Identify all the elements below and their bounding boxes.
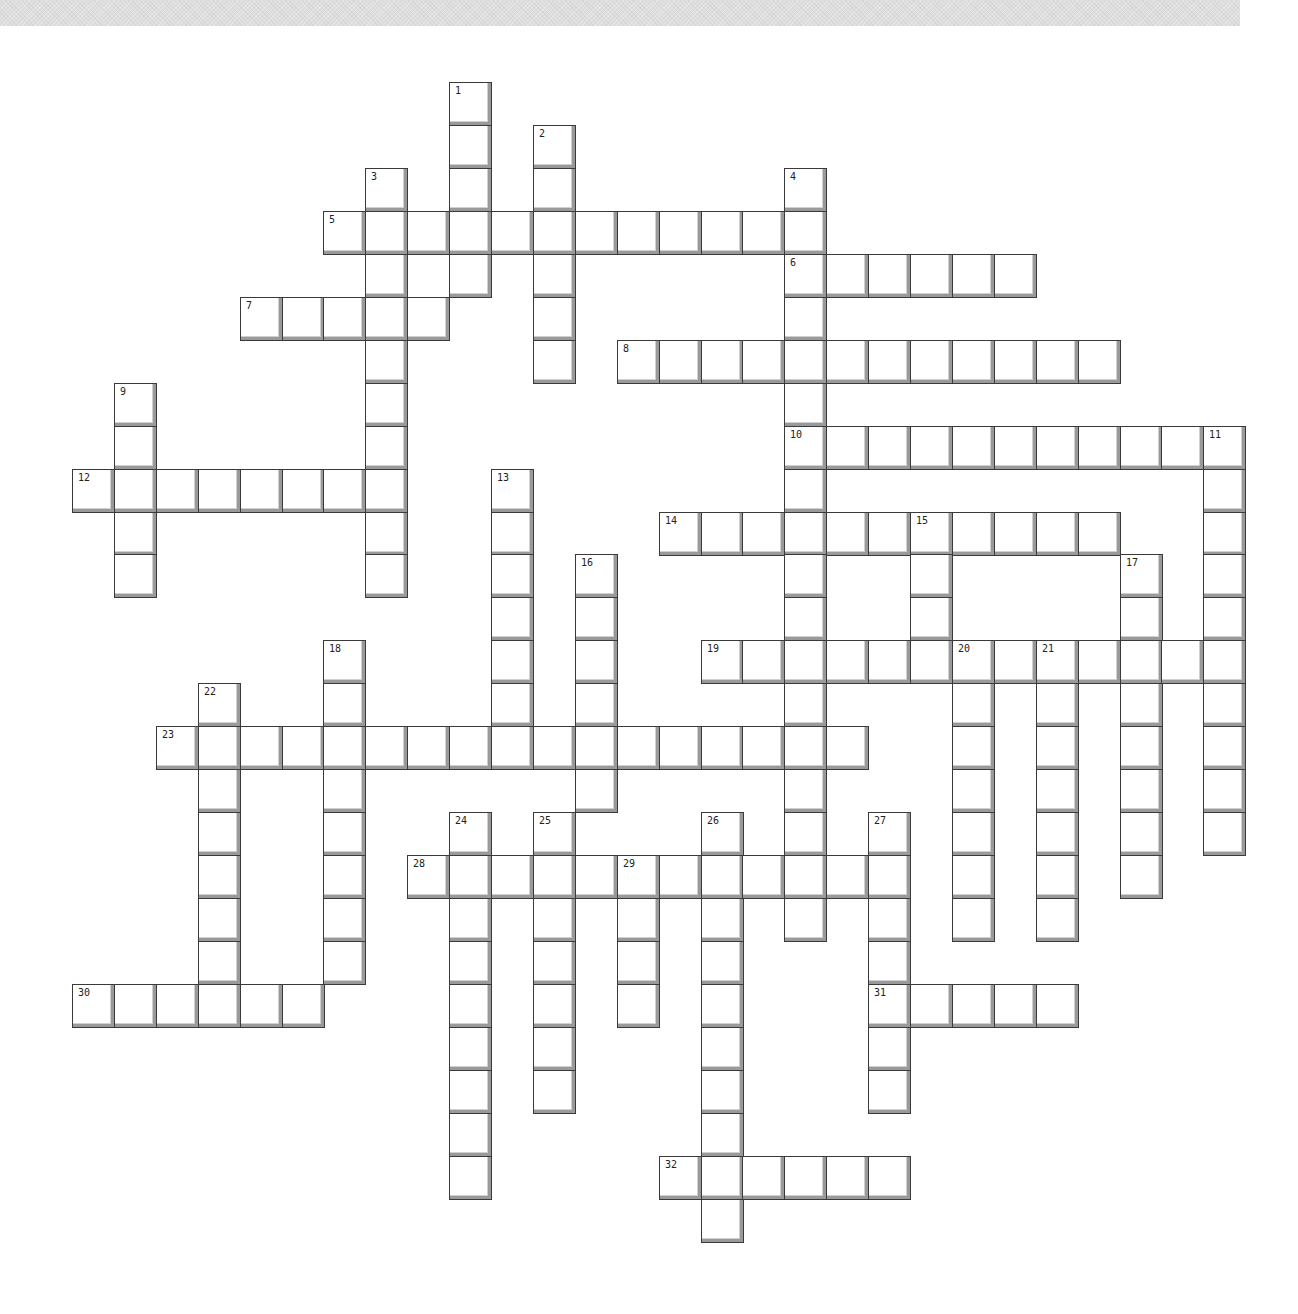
crossword-cell[interactable] xyxy=(868,1027,911,1071)
crossword-cell[interactable] xyxy=(952,512,995,556)
crossword-cell[interactable] xyxy=(1036,855,1079,899)
crossword-cell[interactable] xyxy=(282,984,325,1028)
crossword-cell[interactable] xyxy=(575,640,618,684)
crossword-cell[interactable] xyxy=(449,898,492,942)
crossword-cell[interactable] xyxy=(1120,812,1163,856)
crossword-cell[interactable] xyxy=(533,1070,576,1114)
crossword-cell[interactable] xyxy=(365,211,408,255)
crossword-cell[interactable] xyxy=(575,597,618,641)
crossword-cell[interactable] xyxy=(1078,512,1121,556)
crossword-cell[interactable] xyxy=(491,855,534,899)
crossword-cell[interactable] xyxy=(826,340,869,384)
crossword-cell[interactable]: 4 xyxy=(784,168,827,212)
crossword-cell[interactable] xyxy=(868,941,911,985)
crossword-cell[interactable] xyxy=(784,683,827,727)
crossword-cell[interactable] xyxy=(575,726,618,770)
crossword-cell[interactable] xyxy=(323,769,366,813)
crossword-cell[interactable] xyxy=(491,640,534,684)
crossword-cell[interactable] xyxy=(114,512,157,556)
crossword-cell[interactable]: 16 xyxy=(575,554,618,598)
crossword-cell[interactable] xyxy=(449,984,492,1028)
crossword-cell[interactable] xyxy=(323,812,366,856)
crossword-cell[interactable] xyxy=(994,254,1037,298)
crossword-cell[interactable] xyxy=(1120,426,1163,470)
crossword-cell[interactable]: 29 xyxy=(617,855,660,899)
crossword-cell[interactable] xyxy=(952,812,995,856)
crossword-cell[interactable] xyxy=(1203,512,1246,556)
crossword-cell[interactable] xyxy=(910,554,953,598)
crossword-cell[interactable] xyxy=(826,855,869,899)
crossword-cell[interactable]: 8 xyxy=(617,340,660,384)
crossword-cell[interactable] xyxy=(994,426,1037,470)
crossword-cell[interactable] xyxy=(784,512,827,556)
crossword-cell[interactable]: 22 xyxy=(198,683,241,727)
crossword-cell[interactable] xyxy=(659,855,702,899)
crossword-cell[interactable] xyxy=(449,125,492,169)
crossword-cell[interactable] xyxy=(659,726,702,770)
crossword-cell[interactable] xyxy=(784,812,827,856)
crossword-cell[interactable] xyxy=(575,683,618,727)
crossword-cell[interactable] xyxy=(449,1156,492,1200)
crossword-cell[interactable] xyxy=(826,726,869,770)
crossword-cell[interactable] xyxy=(784,340,827,384)
crossword-cell[interactable] xyxy=(910,640,953,684)
crossword-cell[interactable] xyxy=(114,554,157,598)
crossword-cell[interactable] xyxy=(198,469,241,513)
crossword-cell[interactable] xyxy=(826,254,869,298)
crossword-cell[interactable] xyxy=(1036,340,1079,384)
crossword-cell[interactable] xyxy=(826,640,869,684)
crossword-cell[interactable] xyxy=(323,297,366,341)
crossword-cell[interactable] xyxy=(1036,984,1079,1028)
crossword-cell[interactable] xyxy=(449,1027,492,1071)
crossword-cell[interactable] xyxy=(198,769,241,813)
crossword-cell[interactable] xyxy=(282,469,325,513)
crossword-cell[interactable] xyxy=(952,340,995,384)
crossword-cell[interactable] xyxy=(156,469,199,513)
crossword-cell[interactable]: 23 xyxy=(156,726,199,770)
crossword-cell[interactable] xyxy=(533,254,576,298)
crossword-cell[interactable] xyxy=(365,297,408,341)
crossword-cell[interactable] xyxy=(491,554,534,598)
crossword-cell[interactable] xyxy=(617,941,660,985)
crossword-cell[interactable] xyxy=(910,426,953,470)
crossword-cell[interactable] xyxy=(198,855,241,899)
crossword-cell[interactable] xyxy=(1120,683,1163,727)
crossword-cell[interactable] xyxy=(868,1156,911,1200)
crossword-cell[interactable] xyxy=(1203,812,1246,856)
crossword-cell[interactable] xyxy=(868,640,911,684)
crossword-cell[interactable] xyxy=(784,769,827,813)
crossword-cell[interactable] xyxy=(1120,769,1163,813)
crossword-cell[interactable] xyxy=(240,726,283,770)
crossword-cell[interactable] xyxy=(742,855,785,899)
crossword-cell[interactable] xyxy=(533,898,576,942)
crossword-cell[interactable] xyxy=(449,941,492,985)
crossword-cell[interactable] xyxy=(1036,769,1079,813)
crossword-cell[interactable] xyxy=(365,726,408,770)
crossword-cell[interactable] xyxy=(701,1113,744,1157)
crossword-cell[interactable]: 32 xyxy=(659,1156,702,1200)
crossword-cell[interactable] xyxy=(784,297,827,341)
crossword-cell[interactable] xyxy=(868,855,911,899)
crossword-cell[interactable] xyxy=(1120,640,1163,684)
crossword-cell[interactable] xyxy=(491,683,534,727)
crossword-cell[interactable] xyxy=(533,211,576,255)
crossword-cell[interactable] xyxy=(826,426,869,470)
crossword-cell[interactable] xyxy=(784,726,827,770)
crossword-cell[interactable] xyxy=(449,168,492,212)
crossword-cell[interactable] xyxy=(365,340,408,384)
crossword-cell[interactable] xyxy=(868,512,911,556)
crossword-cell[interactable] xyxy=(198,984,241,1028)
crossword-cell[interactable] xyxy=(533,297,576,341)
crossword-cell[interactable] xyxy=(1120,855,1163,899)
crossword-cell[interactable] xyxy=(952,683,995,727)
crossword-cell[interactable] xyxy=(910,340,953,384)
crossword-cell[interactable] xyxy=(491,512,534,556)
crossword-cell[interactable] xyxy=(1036,683,1079,727)
crossword-cell[interactable] xyxy=(784,554,827,598)
crossword-cell[interactable] xyxy=(701,726,744,770)
crossword-cell[interactable] xyxy=(365,554,408,598)
crossword-cell[interactable] xyxy=(617,211,660,255)
crossword-cell[interactable] xyxy=(784,469,827,513)
crossword-cell[interactable]: 2 xyxy=(533,125,576,169)
crossword-cell[interactable] xyxy=(365,469,408,513)
